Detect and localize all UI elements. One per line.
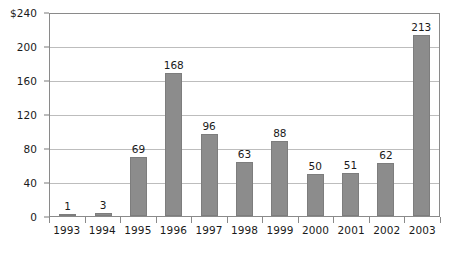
bar [377,163,394,216]
y-axis-tick-label: 120 [17,110,37,120]
bar-value-label: 96 [202,121,215,132]
bar-value-label: 88 [273,128,286,139]
bar [130,157,147,216]
x-axis-tick-mark [49,217,50,223]
bar-group: 50 [298,14,333,216]
x-axis-tick-label: 2000 [298,224,334,236]
x-axis-tick-label: 2003 [404,224,440,236]
bar-group: 88 [262,14,297,216]
x-axis-tick-mark [369,217,370,223]
bar-value-label: 51 [344,160,357,171]
x-axis-tick-label: 1998 [227,224,263,236]
bar-value-label: 213 [411,22,431,33]
y-axis-tick-label: 80 [23,144,37,154]
x-axis-tick-label: 1997 [191,224,227,236]
bar [95,213,112,216]
bar-group: 1 [50,14,85,216]
bar-group: 3 [85,14,120,216]
bar-value-label: 69 [132,144,145,155]
x-axis-tick-mark [404,217,405,223]
bar-group: 213 [404,14,439,216]
bar-value-label: 1 [64,201,71,212]
x-axis-tick-label: 2001 [333,224,369,236]
x-axis-tick-label: 1993 [49,224,85,236]
bar-value-label: 62 [379,150,392,161]
x-axis-tick-marks [49,217,440,223]
bar [59,214,76,216]
bar-value-label: 50 [309,161,322,172]
x-axis-tick-mark [85,217,86,223]
bar-group: 62 [368,14,403,216]
x-axis-tick-label: 1994 [85,224,121,236]
bar [165,73,182,216]
x-axis-tick-mark [262,217,263,223]
y-axis-tick-label: $240 [10,8,37,18]
x-axis-tick-label: 2002 [369,224,405,236]
x-axis-labels: 1993199419951996199719981999200020012002… [49,224,440,236]
x-axis-tick-mark [440,217,441,223]
bar-group: 168 [156,14,191,216]
bar-value-label: 63 [238,149,251,160]
plot-area: 1369168966388505162213 [49,13,440,217]
bar [413,35,430,216]
bar-group: 96 [191,14,226,216]
x-axis-tick-label: 1995 [120,224,156,236]
bar-group: 51 [333,14,368,216]
bars-group: 1369168966388505162213 [50,14,439,216]
x-axis-tick-mark [120,217,121,223]
y-axis-tick-label: 40 [23,178,37,188]
bar [201,134,218,216]
bar-value-label: 168 [164,60,184,71]
y-axis-tick-label: 200 [17,42,37,52]
bar-group: 63 [227,14,262,216]
x-axis-tick-label: 1996 [156,224,192,236]
x-axis-tick-mark [333,217,334,223]
bar-chart: 04080120160200$240 136916896638850516221… [0,0,455,272]
bar [236,162,253,216]
y-axis-tick-label: 160 [17,76,37,86]
x-axis: 1993199419951996199719981999200020012002… [49,217,440,247]
x-axis-tick-mark [156,217,157,223]
bar-value-label: 3 [100,200,107,211]
bar [271,141,288,216]
bar [342,173,359,216]
bar [307,174,324,217]
x-axis-tick-mark [227,217,228,223]
x-axis-tick-label: 1999 [262,224,298,236]
x-axis-tick-mark [298,217,299,223]
y-axis-tick-label: 0 [30,212,37,222]
x-axis-tick-mark [191,217,192,223]
bar-group: 69 [121,14,156,216]
y-axis: 04080120160200$240 [0,0,44,272]
